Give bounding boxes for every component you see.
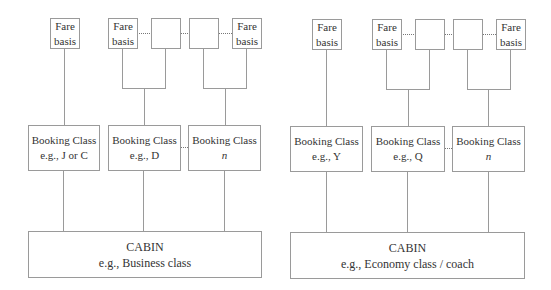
fare-basis-box-blank (151, 18, 181, 49)
booking-class-box: Booking Class e.g., D (108, 125, 181, 171)
connector (246, 48, 247, 88)
connector (143, 170, 144, 232)
connector (488, 171, 489, 233)
fare-basis-box-blank (189, 18, 219, 49)
booking-title: Booking Class (456, 134, 520, 149)
booking-class-box: Booking Class n (188, 125, 261, 171)
booking-title: Booking Class (376, 134, 440, 149)
booking-title: Booking Class (294, 134, 358, 149)
fare-line1: Fare (237, 19, 257, 34)
fare-line1: Fare (501, 20, 521, 35)
cabin-sub: e.g., Economy class / coach (341, 256, 474, 272)
connector (408, 89, 409, 126)
connector (144, 88, 145, 125)
booking-sub: e.g., Y (312, 149, 341, 164)
booking-class-box: Booking Class e.g., J or C (28, 125, 100, 171)
connector (407, 171, 408, 233)
connector (225, 88, 226, 125)
dotted-connector (444, 148, 452, 149)
connector (488, 89, 489, 126)
cabin-title: CABIN (389, 240, 426, 256)
booking-class-box: Booking Class e.g., Q (371, 126, 445, 172)
booking-sub: e.g., J or C (40, 148, 88, 163)
cabin-title: CABIN (126, 239, 163, 255)
booking-title: Booking Class (32, 133, 96, 148)
fare-basis-box: Fare basis (232, 18, 262, 49)
connector (467, 49, 468, 89)
fare-line2: basis (112, 34, 134, 49)
fare-line1: Fare (377, 20, 397, 35)
fare-basis-box: Fare basis (496, 19, 526, 50)
connector (165, 48, 166, 88)
connector (203, 48, 204, 88)
booking-sub: n (486, 149, 492, 164)
booking-sub: n (222, 148, 228, 163)
connector (63, 170, 64, 232)
connector (224, 170, 225, 232)
fare-basis-box-blank (415, 19, 445, 50)
fare-basis-box: Fare basis (108, 18, 138, 49)
cabin-sub: e.g., Business class (99, 255, 191, 271)
fare-line2: basis (54, 34, 76, 49)
cabin-box: CABIN e.g., Business class (28, 231, 262, 278)
booking-sub: e.g., Q (393, 149, 422, 164)
connector (386, 49, 387, 89)
connector (122, 48, 123, 88)
booking-title: Booking Class (192, 133, 256, 148)
booking-sub: e.g., D (130, 148, 159, 163)
fare-line1: Fare (317, 20, 337, 35)
fare-line2: basis (316, 35, 338, 50)
fare-line2: basis (500, 35, 522, 50)
connector (467, 89, 511, 90)
fare-basis-box-blank (453, 19, 483, 50)
fare-basis-box: Fare basis (50, 18, 80, 49)
dotted-connector (180, 147, 188, 148)
fare-line2: basis (236, 34, 258, 49)
fare-line1: Fare (55, 19, 75, 34)
fare-line2: basis (376, 35, 398, 50)
connector (326, 171, 327, 233)
booking-title: Booking Class (112, 133, 176, 148)
connector (64, 48, 65, 125)
cabin-box: CABIN e.g., Economy class / coach (290, 232, 525, 279)
booking-class-box: Booking Class e.g., Y (290, 126, 363, 172)
connector (510, 49, 511, 89)
connector (326, 49, 327, 126)
fare-line1: Fare (113, 19, 133, 34)
booking-class-box: Booking Class n (452, 126, 525, 172)
connector (429, 49, 430, 89)
fare-basis-box: Fare basis (312, 19, 342, 50)
fare-basis-box: Fare basis (372, 19, 402, 50)
